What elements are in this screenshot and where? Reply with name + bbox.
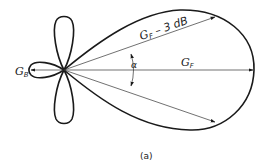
upper-side-lobe	[54, 17, 73, 71]
back-gain-label: GB	[15, 65, 29, 79]
lower-half-power-arrow	[64, 70, 215, 122]
half-power-label: GF – 3 dB	[138, 14, 190, 44]
antenna-radiation-pattern-diagram: GB GF GF – 3 dB α (a)	[0, 0, 266, 166]
figure-caption: (a)	[140, 151, 153, 161]
forward-gain-label: GF	[181, 56, 195, 70]
lower-side-lobe	[54, 70, 73, 124]
beamwidth-alpha-label: α	[131, 60, 137, 70]
